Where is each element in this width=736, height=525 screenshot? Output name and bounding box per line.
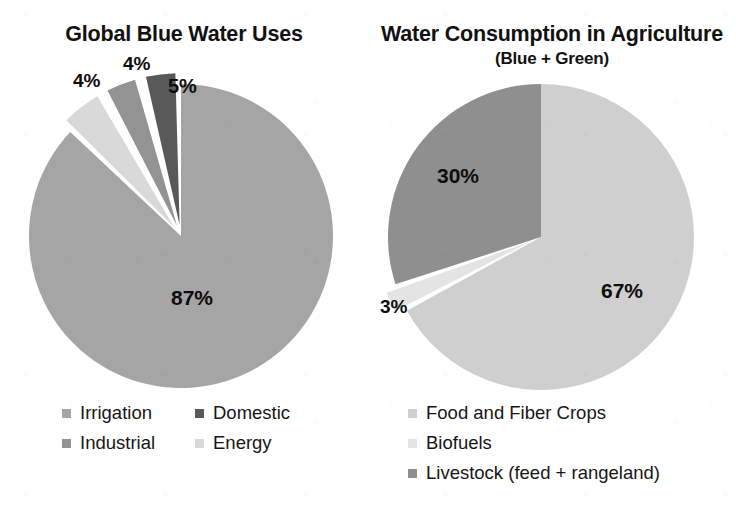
right-label-biofuels: 3% [380, 296, 407, 318]
legend-swatch-livestock [408, 469, 417, 478]
legend-right: Food and Fiber Crops Biofuels Livestock … [408, 398, 708, 488]
legend-label-biofuels: Biofuels [426, 434, 492, 453]
right-label-livestock: 30% [437, 164, 479, 188]
right-label-food-and-fiber-crops: 67% [601, 279, 643, 303]
legend-swatch-biofuels [408, 439, 417, 448]
legend-label-food-and-fiber-crops: Food and Fiber Crops [426, 404, 606, 423]
legend-item-biofuels[interactable]: Biofuels [408, 428, 708, 458]
legend-item-food-and-fiber-crops[interactable]: Food and Fiber Crops [408, 398, 708, 428]
legend-item-livestock[interactable]: Livestock (feed + rangeland) [408, 458, 708, 488]
legend-label-livestock: Livestock (feed + rangeland) [426, 464, 660, 483]
legend-swatch-food-and-fiber-crops [408, 409, 417, 418]
